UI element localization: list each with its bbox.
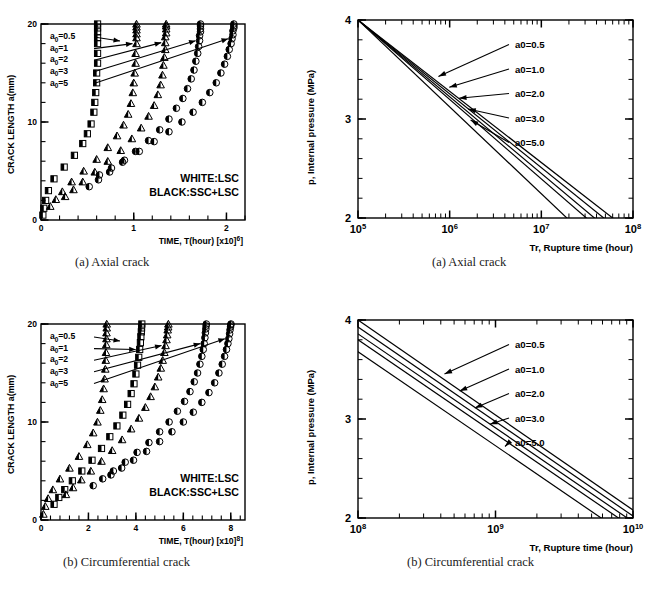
legend-value: =2 <box>58 54 68 64</box>
data-point-fill <box>92 99 95 105</box>
legend-label-1: a0=1.0 <box>515 364 545 375</box>
data-point-fill <box>134 362 137 368</box>
legend-arrow-0 <box>438 45 509 77</box>
x-tick-exponent: 8 <box>637 222 641 231</box>
x-axis-label: TIME, T(hour) [x10]8] <box>159 535 244 546</box>
legend-arrowhead-0 <box>438 71 446 76</box>
legend-value: =2 <box>58 354 68 364</box>
x-tick-label: 6 <box>181 523 186 533</box>
x-tick-label: 2 <box>224 223 229 233</box>
chart-rupture-time-circumferential: 1081091010234p, Internal pressure (MPa)T… <box>300 300 658 550</box>
legend-arrowhead-1 <box>449 83 457 88</box>
legend-label-0: a0=0.5 <box>50 31 75 42</box>
legend-label-2: a0=2 <box>50 354 68 365</box>
data-point-fill <box>40 212 43 218</box>
x-tick-label-2: 107 <box>533 222 549 235</box>
x-tick-exponent: 5 <box>362 222 367 231</box>
legend-arrowhead-0 <box>445 369 453 374</box>
data-point-fill <box>69 478 72 484</box>
legend-arrow-0 <box>445 345 510 375</box>
caption-panel-a-left: (a) Axial crack <box>75 255 149 270</box>
x-tick-label: 4 <box>134 523 139 533</box>
x-tick-exponent: 9 <box>500 522 504 531</box>
legend-arrowhead-4 <box>221 38 228 43</box>
x-tick-exponent: 10 <box>635 522 643 531</box>
chart-crack-growth-circumferential: 0246801020CRACK LENGTH a(mm)TIME, T(hour… <box>0 300 335 550</box>
legend-label-3: a0=3 <box>50 366 68 377</box>
annotation-white-lsc: WHITE:LSC <box>180 172 239 184</box>
data-point-fill <box>51 501 54 507</box>
data-point-fill <box>137 346 140 352</box>
legend-value: =1 <box>58 43 68 53</box>
legend-arrowhead-2 <box>155 344 162 349</box>
data-point-fill <box>91 109 94 115</box>
x-axis-label: TIME, T(hour) [x10]6] <box>159 235 244 246</box>
legend-value: =3 <box>58 66 68 76</box>
chart-crack-growth-axial: 01201020CRACK LENGTH a(mm)TIME, T(hour) … <box>0 0 335 250</box>
legend-value: =5 <box>58 78 68 88</box>
y-tick-label: 4 <box>345 14 352 26</box>
y-tick-label: 0 <box>32 515 37 525</box>
data-point-fill <box>124 401 127 407</box>
data-point-fill <box>94 41 97 47</box>
x-tick-label-2: 1010 <box>623 522 644 535</box>
caption-panel-a-right: (a) Axial crack <box>432 255 506 270</box>
x-axis-label: Tr, Rupture time (hour) <box>530 242 633 253</box>
x-tick-label: 8 <box>228 523 233 533</box>
data-point-fill <box>120 412 123 418</box>
legend-label-0: a0=0.5 <box>515 39 545 50</box>
legend-label-0: a0=0.5 <box>50 331 75 342</box>
x-axis-bracket: ] <box>240 536 243 546</box>
data-point-fill <box>139 321 142 327</box>
data-point-fill <box>98 445 101 451</box>
y-axis-label: p, Internal pressure (MPa) <box>305 370 316 485</box>
data-point-fill <box>43 197 46 203</box>
legend-label-4: a0=5 <box>50 378 68 389</box>
x-tick-label: 2 <box>86 523 91 533</box>
y-tick-label: 20 <box>28 319 38 329</box>
y-tick-label: 4 <box>345 314 352 326</box>
legend-arrowhead-2 <box>154 42 161 47</box>
legend-arrowhead-0 <box>113 37 120 42</box>
data-point-fill <box>94 60 97 66</box>
legend-arrow-1 <box>449 69 509 87</box>
x-tick-exponent: 8 <box>362 522 366 531</box>
data-point-fill <box>94 21 97 27</box>
data-point-fill <box>62 487 65 493</box>
legend-arrowhead-4 <box>218 338 225 343</box>
series-2 <box>61 20 170 199</box>
legend-arrowhead-4 <box>471 120 479 126</box>
panel-crack-growth-axial: 01201020CRACK LENGTH a(mm)TIME, T(hour) … <box>0 0 335 250</box>
x-tick-label-3: 108 <box>625 222 641 235</box>
data-point-fill <box>71 152 74 158</box>
data-point-fill <box>69 484 73 491</box>
legend-value: =0.5 <box>58 331 75 341</box>
data-point-fill <box>80 140 83 146</box>
plot-frame <box>358 20 633 218</box>
x-axis-label: Tr, Rupture time (hour) <box>530 542 633 553</box>
legend-arrowhead-1 <box>126 42 133 47</box>
data-point-fill <box>128 390 131 396</box>
y-tick-label: 10 <box>28 417 38 427</box>
caption-panel-b-left: (b) Circumferential crack <box>63 555 190 570</box>
legend-label-3: a0=3.0 <box>515 113 545 124</box>
data-point-fill <box>133 371 136 377</box>
legend-label-0: a0=0.5 <box>515 339 545 350</box>
legend-label-3: a0=3 <box>50 66 68 77</box>
data-point-fill <box>131 381 134 387</box>
annotation-white-lsc: WHITE:LSC <box>180 472 239 484</box>
chart-rupture-time-axial: 105106107108234p, Internal pressure (MPa… <box>300 0 658 250</box>
x-tick-exponent: 7 <box>545 222 549 231</box>
data-point-fill <box>84 131 87 137</box>
data-point-fill <box>127 100 131 107</box>
panel-rupture-time-axial: 105106107108234p, Internal pressure (MPa… <box>300 0 658 250</box>
legend-value: =1 <box>58 343 68 353</box>
annotation-black-ssc-lsc: BLACK:SSC+LSC <box>149 486 239 498</box>
x-tick-label-1: 109 <box>487 522 503 535</box>
legend-label-1: a0=1.0 <box>515 64 545 75</box>
legend-label-1: a0=1 <box>50 43 68 54</box>
x-tick-label: 0 <box>39 223 44 233</box>
x-tick-label-0: 105 <box>350 222 367 235</box>
y-tick-label: 20 <box>28 19 38 29</box>
x-tick-label: 0 <box>39 523 44 533</box>
